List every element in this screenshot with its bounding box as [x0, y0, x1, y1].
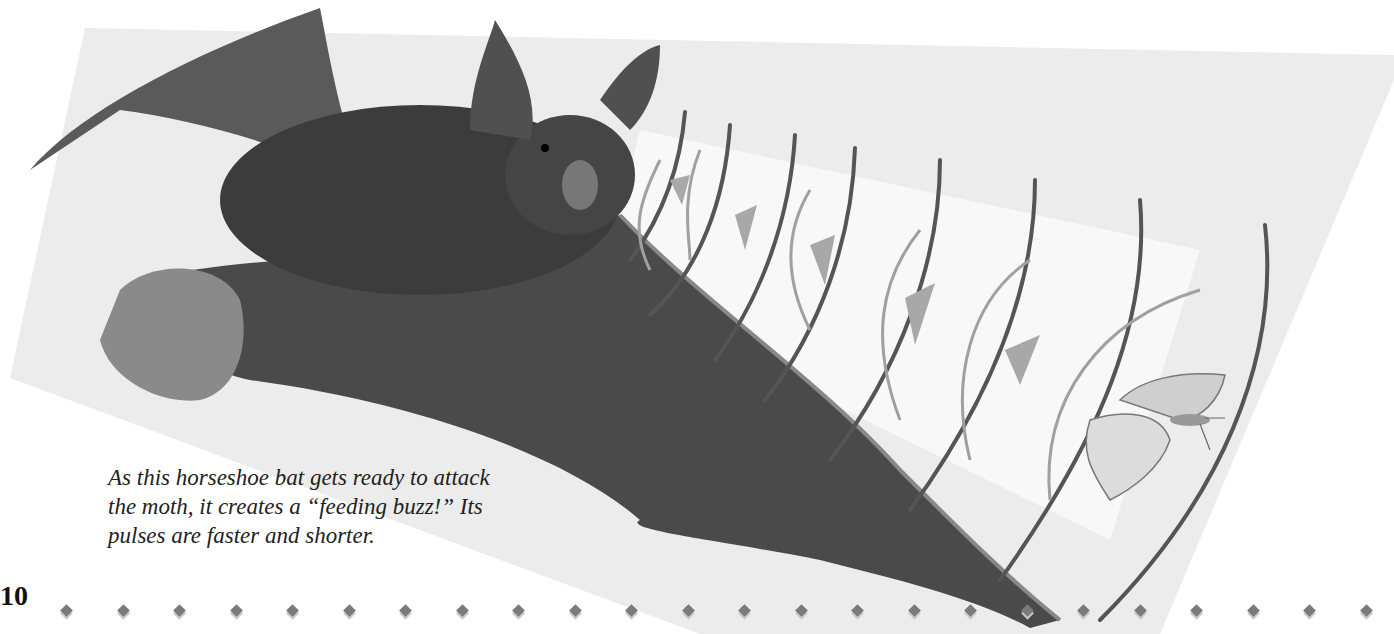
bat-noseleaf: [562, 160, 598, 210]
diamond-ornament-icon: [117, 604, 130, 617]
diamond-ornament-icon: [1021, 604, 1034, 617]
diamond-ornament-icon: [569, 604, 582, 617]
diamond-ornament-icon: [964, 604, 977, 617]
caption-line: As this horseshoe bat gets ready to atta…: [108, 463, 548, 492]
bat-eye: [541, 144, 549, 152]
diamond-ornament-icon: [1077, 604, 1090, 617]
diamond-ornament-icon: [851, 604, 864, 617]
caption: As this horseshoe bat gets ready to atta…: [108, 463, 548, 550]
diamond-border: [0, 600, 1394, 630]
diamond-ornament-icon: [286, 604, 299, 617]
diamond-ornament-icon: [625, 604, 638, 617]
diamond-ornament-icon: [1190, 604, 1203, 617]
caption-line: the moth, it creates a “feeding buzz!” I…: [108, 492, 548, 521]
diamond-ornament-icon: [738, 604, 751, 617]
diamond-ornament-icon: [456, 604, 469, 617]
diamond-ornament-icon: [512, 604, 525, 617]
diamond-ornament-icon: [1303, 604, 1316, 617]
diamond-ornament-icon: [230, 604, 243, 617]
diamond-ornament-icon: [399, 604, 412, 617]
diamond-ornament-icon: [1134, 604, 1147, 617]
diamond-ornament-icon: [173, 604, 186, 617]
diamond-ornament-icon: [682, 604, 695, 617]
diamond-ornament-icon: [343, 604, 356, 617]
caption-line: pulses are faster and shorter.: [108, 521, 548, 550]
diamond-ornament-icon: [795, 604, 808, 617]
diamond-ornament-icon: [1247, 604, 1260, 617]
diamond-ornament-icon: [1360, 604, 1373, 617]
diamond-ornament-icon: [60, 604, 73, 617]
book-page: As this horseshoe bat gets ready to atta…: [0, 0, 1394, 634]
diamond-ornament-icon: [908, 604, 921, 617]
